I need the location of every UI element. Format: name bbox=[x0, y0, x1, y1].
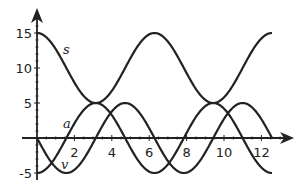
y-tick-label: 15 bbox=[15, 26, 32, 41]
y-tick-label: -5 bbox=[19, 166, 32, 181]
x-tick-label: 8 bbox=[182, 145, 190, 160]
x-tick-label: 10 bbox=[216, 145, 233, 160]
curve-s bbox=[37, 33, 272, 103]
y-tick-label: 10 bbox=[15, 61, 32, 76]
y-tick-label: 5 bbox=[24, 96, 32, 111]
x-tick-label: 2 bbox=[70, 145, 78, 160]
label-v: v bbox=[61, 157, 69, 172]
chart: 24681012 -551015 s a v bbox=[0, 0, 305, 188]
y-tick-labels: -551015 bbox=[15, 26, 32, 181]
x-tick-label: 6 bbox=[145, 145, 153, 160]
label-s: s bbox=[63, 42, 70, 57]
label-a: a bbox=[63, 116, 71, 131]
x-tick-labels: 24681012 bbox=[70, 145, 269, 160]
x-tick-label: 4 bbox=[108, 145, 116, 160]
x-tick-label: 12 bbox=[253, 145, 270, 160]
